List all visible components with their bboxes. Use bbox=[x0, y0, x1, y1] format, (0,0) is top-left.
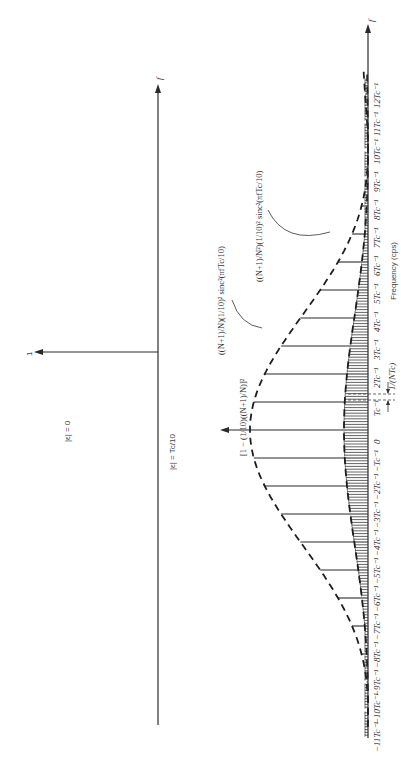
dc-arrowhead-icon bbox=[220, 427, 229, 433]
top-f-arrowhead-icon bbox=[155, 84, 161, 93]
bottom-f-label: f bbox=[366, 18, 376, 22]
upper-envelope-annotation: ((N+1)/N)(1/10)² sinc²(πfTc/10) bbox=[216, 246, 226, 355]
tick-label: −9Tc⁻¹ bbox=[372, 669, 382, 696]
tick-label: 11Tc⁻¹ bbox=[372, 111, 382, 136]
tick-label: 5Tc⁻¹ bbox=[372, 283, 382, 304]
dc-term-annotation: [1 − (1/10)((N+1)/N)]² bbox=[238, 378, 248, 456]
tick-label: −11Tc⁻¹ bbox=[372, 721, 382, 752]
top-impulse-arrowhead-icon bbox=[34, 349, 43, 355]
tick-label: 10Tc⁻¹ bbox=[372, 139, 382, 164]
tick-label: 7Tc⁻¹ bbox=[372, 227, 382, 248]
tick-label: −3Tc⁻¹ bbox=[372, 501, 382, 528]
tick-label: −2Tc⁻¹ bbox=[372, 473, 382, 500]
top-panel-label: |ε| = 0 bbox=[63, 420, 72, 442]
tick-label: −4Tc⁻¹ bbox=[372, 529, 382, 556]
tick-label: −8Tc⁻¹ bbox=[372, 641, 382, 668]
tick-label: 0 bbox=[372, 439, 382, 444]
bottom-panel: |ε| = Tc/10 f −11Tc⁻¹−10Tc⁻¹−9Tc⁻¹−8Tc⁻¹… bbox=[168, 18, 398, 752]
tick-label: 9Tc⁻¹ bbox=[372, 171, 382, 192]
spacing-label: 1/(NTc) bbox=[387, 363, 397, 390]
tick-label: 2Tc⁻¹ bbox=[372, 367, 382, 388]
x-axis-title: Frequency (cps) bbox=[389, 242, 398, 300]
lower-annotation-leader bbox=[268, 210, 330, 236]
tick-label: 8Tc⁻¹ bbox=[372, 199, 382, 220]
tick-label: −5Tc⁻¹ bbox=[372, 557, 382, 584]
top-panel: f 1 |ε| = 0 bbox=[25, 76, 164, 725]
bottom-f-arrowhead-icon bbox=[365, 24, 371, 33]
tick-labels: −11Tc⁻¹−10Tc⁻¹−9Tc⁻¹−8Tc⁻¹−7Tc⁻¹−6Tc⁻¹−5… bbox=[372, 83, 382, 752]
lower-envelope-annotation: ((N+1)/N²)(1/10)² sinc²(πfTc/10) bbox=[254, 171, 264, 282]
tick-label: 4Tc⁻¹ bbox=[372, 311, 382, 332]
tick-label: −7Tc⁻¹ bbox=[372, 613, 382, 640]
tick-label: 3Tc⁻¹ bbox=[372, 339, 382, 361]
tick-label: −6Tc⁻¹ bbox=[372, 585, 382, 612]
tick-label: −10Tc⁻¹ bbox=[372, 693, 382, 724]
tick-label: −Tc⁻¹ bbox=[372, 450, 382, 472]
top-impulse-label: 1 bbox=[25, 351, 34, 356]
upper-annotation-leader bbox=[232, 300, 262, 328]
spectrum-diagram: f 1 |ε| = 0 |ε| = Tc/10 f −11Tc⁻¹−10Tc⁻¹… bbox=[0, 0, 401, 776]
bottom-panel-label: |ε| = Tc/10 bbox=[168, 433, 177, 470]
tick-label: 6Tc⁻¹ bbox=[372, 255, 382, 276]
tick-label: 12Tc⁻¹ bbox=[372, 83, 382, 108]
top-f-label: f bbox=[154, 76, 164, 80]
tick-label: Tc⁻¹ bbox=[372, 400, 382, 416]
